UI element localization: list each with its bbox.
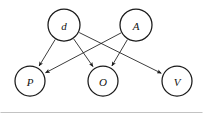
node-label-P: P	[26, 76, 34, 88]
node-O: O	[88, 66, 118, 96]
node-A: A	[120, 9, 152, 41]
nodes-layer: dAPOV	[15, 9, 192, 96]
edge-d-to-V	[79, 33, 161, 74]
node-label-d: d	[61, 20, 67, 32]
edge-d-to-P	[39, 40, 55, 66]
node-P: P	[15, 66, 45, 96]
dag-figure: dAPOV	[0, 0, 203, 114]
node-label-A: A	[132, 20, 140, 32]
node-d: d	[48, 9, 80, 41]
dag-canvas: dAPOV	[0, 0, 203, 114]
node-label-O: O	[99, 76, 107, 88]
edge-A-to-O	[112, 40, 127, 66]
node-V: V	[162, 66, 192, 96]
